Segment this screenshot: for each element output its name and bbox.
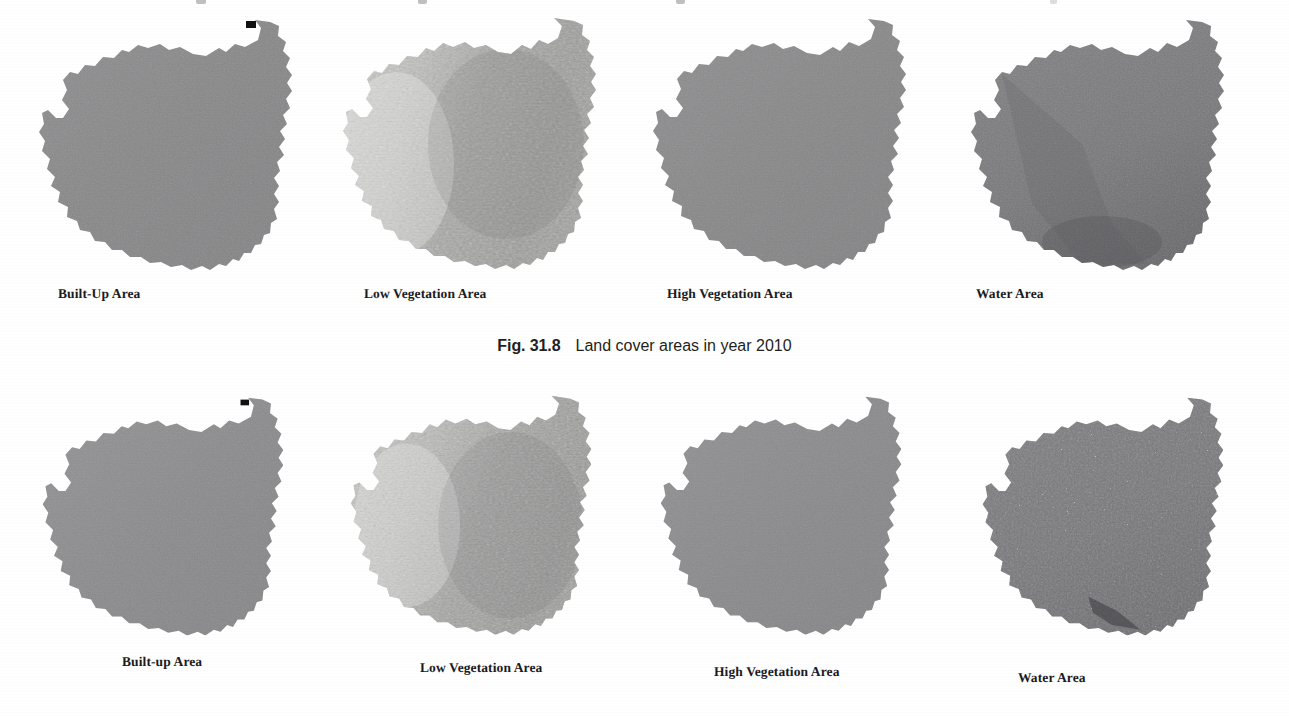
figure-row-2010: Built-Up Area — [0, 14, 1289, 324]
map-label-water-2010: Water Area — [976, 286, 1044, 302]
figure-caption: Fig. 31.8Land cover areas in year 2010 — [0, 336, 1289, 356]
map-label-built-up-2010: Built-Up Area — [58, 286, 140, 302]
map-label-low-vegetation-lower: Low Vegetation Area — [420, 660, 542, 676]
map-panel-high-vegetation-2010: High Vegetation Area — [646, 14, 936, 282]
map-label-built-up-lower: Built-up Area — [122, 654, 202, 670]
map-panel-built-up-2010: Built-Up Area — [30, 14, 320, 282]
map-panel-low-vegetation-2010: Low Vegetation Area — [336, 14, 626, 282]
map-panel-high-vegetation-lower: High Vegetation Area — [652, 392, 932, 647]
map-image-high-vegetation-2010 — [646, 14, 936, 282]
map-image-low-vegetation-lower — [342, 392, 622, 647]
map-image-low-vegetation-2010 — [336, 14, 626, 282]
map-image-built-up-lower — [32, 392, 312, 647]
map-panel-water-lower: Water Area — [972, 392, 1252, 647]
map-image-built-up-2010 — [30, 14, 320, 282]
map-panel-built-up-lower: Built-up Area — [32, 392, 312, 647]
figure-row-lower: Built-up Area — [0, 392, 1289, 702]
figure-number: Fig. 31.8 — [497, 337, 560, 354]
figure-caption-text: Land cover areas in year 2010 — [575, 337, 791, 354]
map-label-high-vegetation-lower: High Vegetation Area — [714, 664, 840, 680]
map-label-water-lower: Water Area — [1018, 670, 1086, 686]
map-panel-low-vegetation-lower: Low Vegetation Area — [342, 392, 622, 647]
map-image-water-2010 — [962, 14, 1252, 282]
map-image-water-lower — [972, 392, 1252, 647]
map-label-low-vegetation-2010: Low Vegetation Area — [364, 286, 486, 302]
map-panel-water-2010: Water Area — [962, 14, 1252, 282]
clipped-header-remnants — [0, 0, 1289, 7]
map-label-high-vegetation-2010: High Vegetation Area — [667, 286, 793, 302]
document-page: Built-Up Area — [0, 0, 1289, 716]
map-image-high-vegetation-lower — [652, 392, 932, 647]
